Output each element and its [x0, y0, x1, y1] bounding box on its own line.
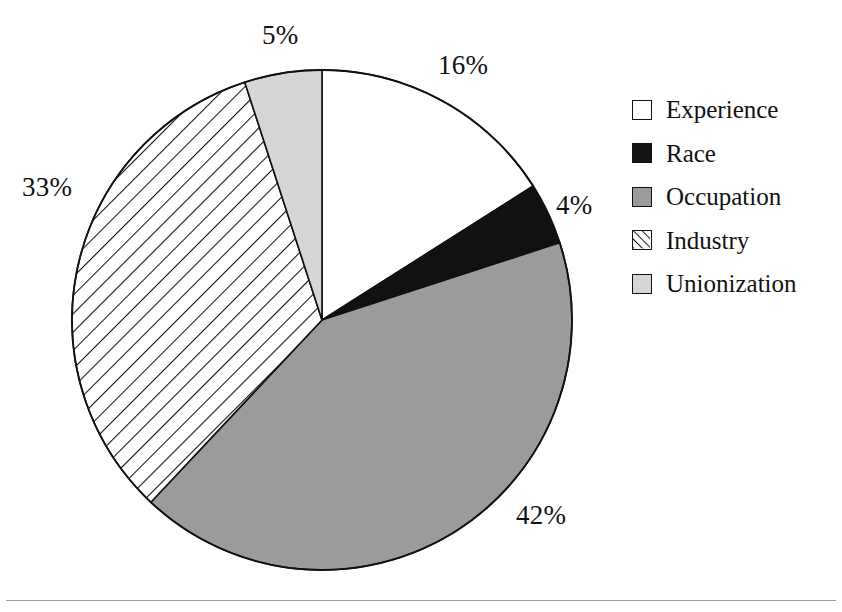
legend-item-industry[interactable]: Industry	[632, 219, 838, 263]
white-swatch-icon	[632, 100, 652, 120]
pie-chart-figure: 5% 16% 4% 42% 33% Experience Race Occupa…	[0, 0, 842, 612]
bottom-divider	[6, 600, 836, 601]
slice-value-label-race: 4%	[556, 190, 592, 221]
legend-label-industry: Industry	[666, 228, 749, 253]
legend-label-unionization: Unionization	[666, 271, 797, 296]
legend-item-occupation[interactable]: Occupation	[632, 175, 838, 219]
chart-legend: Experience Race Occupation Industry Unio…	[632, 88, 838, 306]
legend-label-experience: Experience	[666, 97, 778, 122]
legend-item-race[interactable]: Race	[632, 132, 838, 176]
legend-label-race: Race	[666, 141, 716, 166]
hatched-swatch-icon	[632, 230, 652, 250]
legend-label-occupation: Occupation	[666, 184, 781, 209]
black-swatch-icon	[632, 143, 652, 163]
slice-value-label-occupation: 42%	[516, 500, 566, 531]
legend-item-unionization[interactable]: Unionization	[632, 262, 838, 306]
slice-value-label-unionization: 5%	[262, 20, 298, 51]
legend-item-experience[interactable]: Experience	[632, 88, 838, 132]
light-gray-swatch-icon	[632, 274, 652, 294]
gray-swatch-icon	[632, 187, 652, 207]
slice-value-label-experience: 16%	[438, 50, 488, 81]
slice-value-label-industry: 33%	[22, 172, 72, 203]
